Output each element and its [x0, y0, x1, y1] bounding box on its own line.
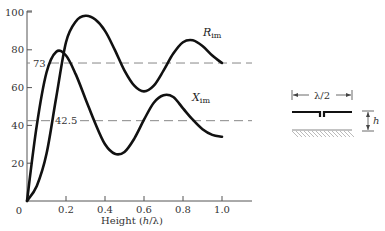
y-tick-label: 100	[5, 7, 24, 18]
dipole-right-arm	[324, 112, 352, 117]
chart-figure: 20406080100 0.20.40.60.81.0 7342.5 Rim X…	[0, 0, 385, 231]
x-tick-label: 0.4	[97, 204, 113, 215]
ground-hatching	[292, 131, 354, 137]
h-up-arrow-icon	[366, 112, 370, 117]
y-tick-label: 80	[11, 44, 24, 55]
dim-right-arrow-icon	[346, 93, 351, 97]
y-tick-label: 20	[11, 158, 24, 169]
reference-label: 42.5	[55, 115, 77, 126]
label-r-im: Rim	[202, 26, 222, 40]
x-axis-title: Height (h/λ)	[101, 215, 163, 226]
reference-label: 73	[33, 58, 46, 69]
dim-left-arrow-icon	[293, 93, 298, 97]
y-tick-label: 40	[11, 120, 24, 131]
x-tick-label: 1.0	[214, 204, 230, 215]
x-ticks: 0.20.40.60.81.0	[58, 196, 230, 215]
x-tick-label: 0.8	[175, 204, 191, 215]
height-label: h	[373, 115, 379, 126]
label-x-im: Xim	[191, 91, 210, 105]
x-tick-label: 0.6	[136, 204, 152, 215]
y-tick-label: 60	[11, 82, 24, 93]
x-tick-label: 0.2	[58, 204, 74, 215]
h-down-arrow-icon	[366, 125, 370, 130]
curve-r-im	[27, 16, 222, 201]
dipole-inset-diagram: λ/2 h	[292, 90, 379, 137]
dipole-left-arm	[292, 112, 320, 117]
y-ticks: 20406080100	[5, 7, 32, 169]
x-origin-label: 0	[16, 205, 22, 216]
length-label: λ/2	[314, 90, 330, 101]
